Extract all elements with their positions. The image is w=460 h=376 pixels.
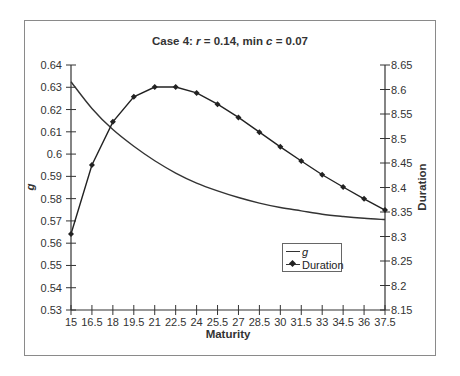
y-tick-label: 0.53: [41, 304, 62, 316]
y-tick-label: 0.6: [47, 148, 62, 160]
y-tick-label: 0.61: [41, 126, 62, 138]
legend-g-label: g: [302, 246, 308, 258]
y2-tick-label: 8.65: [391, 59, 412, 71]
y-tick-label: 0.55: [41, 259, 62, 271]
x-tick-label: 22.5: [165, 316, 186, 328]
x-tick-label: 24: [190, 316, 202, 328]
x-tick-label: 19.5: [123, 316, 144, 328]
x-tick-label: 30: [274, 316, 286, 328]
y-tick-label: 0.59: [41, 170, 62, 182]
duration-marker: [361, 196, 367, 202]
x-tick-label: 37.5: [374, 316, 395, 328]
series-duration-line: [68, 84, 388, 237]
duration-marker: [340, 184, 346, 190]
duration-marker: [173, 84, 179, 90]
legend-item-g: g: [286, 245, 308, 258]
y2-tick-label: 8.6: [391, 84, 406, 96]
chart-legend: g Duration: [282, 243, 342, 272]
legend-g-line-icon: [286, 251, 300, 252]
x-tick-label: 31.5: [291, 316, 312, 328]
y2-tick-label: 8.45: [391, 157, 412, 169]
y-tick-label: 0.57: [41, 215, 62, 227]
y-tick-label: 0.58: [41, 193, 62, 205]
duration-marker: [194, 90, 200, 96]
y2-tick-label: 8.2: [391, 280, 406, 292]
y2-tick-label: 8.25: [391, 255, 412, 267]
y-tick-label: 0.54: [41, 282, 62, 294]
y-tick-label: 0.56: [41, 237, 62, 249]
g-curve: [71, 82, 385, 220]
x-tick-label: 15: [65, 316, 77, 328]
diamond-marker-icon: [289, 260, 296, 267]
x-tick-label: 21: [149, 316, 161, 328]
x-tick-label: 16.5: [81, 316, 102, 328]
y2-tick-label: 8.3: [391, 231, 406, 243]
x-tick-label: 34.5: [332, 316, 353, 328]
y2-axis-title: Duration: [416, 163, 428, 210]
y2-tick-label: 8.15: [391, 304, 412, 316]
y-tick-label: 0.62: [41, 104, 62, 116]
duration-line: [71, 87, 385, 234]
y2-tick-label: 8.35: [391, 206, 412, 218]
y2-tick-label: 8.5: [391, 133, 406, 145]
duration-marker: [68, 231, 74, 237]
legend-duration-label: Duration: [302, 259, 344, 271]
duration-marker: [152, 84, 158, 90]
x-tick-label: 27: [232, 316, 244, 328]
x-axis-title: Maturity: [206, 328, 251, 340]
legend-item-duration: Duration: [286, 258, 344, 271]
x-tick-label: 28.5: [249, 316, 270, 328]
y2-tick-label: 8.4: [391, 182, 406, 194]
x-tick-label: 33: [316, 316, 328, 328]
x-tick-label: 18: [107, 316, 119, 328]
y-tick-label: 0.64: [41, 59, 62, 71]
y2-tick-label: 8.55: [391, 108, 412, 120]
series-g-line: [71, 82, 385, 220]
chart-plot: 0.640.630.620.610.60.590.580.570.560.550…: [0, 0, 460, 376]
y-tick-label: 0.63: [41, 81, 62, 93]
x-tick-label: 36: [358, 316, 370, 328]
duration-marker: [89, 162, 95, 168]
legend-duration-line-icon: [286, 264, 300, 265]
y-axis-title: g: [24, 183, 36, 191]
x-tick-label: 25.5: [207, 316, 228, 328]
